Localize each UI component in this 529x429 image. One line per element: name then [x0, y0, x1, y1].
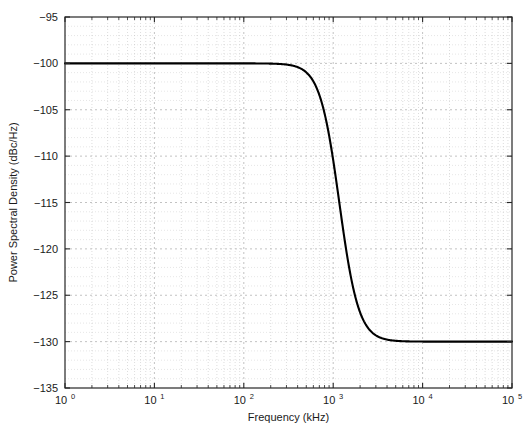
y-tick-label: −100: [33, 57, 58, 69]
plot-area-background: [65, 17, 512, 388]
figure-container: 100101102103104105 −95−100−105−110−115−1…: [0, 0, 529, 429]
svg-text:0: 0: [71, 392, 75, 401]
svg-text:2: 2: [250, 392, 254, 401]
y-tick-label: −95: [39, 11, 58, 23]
svg-text:10: 10: [412, 394, 424, 406]
svg-text:10: 10: [234, 394, 246, 406]
svg-text:3: 3: [339, 392, 343, 401]
y-tick-label: −130: [33, 336, 58, 348]
svg-text:10: 10: [144, 394, 156, 406]
svg-text:5: 5: [518, 392, 522, 401]
y-tick-label: −120: [33, 243, 58, 255]
svg-text:10: 10: [55, 394, 67, 406]
y-tick-label: −115: [34, 197, 58, 209]
y-axis-title: Power Spectral Density (dBc/Hz): [7, 122, 19, 282]
svg-text:1: 1: [160, 392, 164, 401]
svg-text:10: 10: [502, 394, 514, 406]
y-tick-label: −125: [33, 289, 58, 301]
svg-text:4: 4: [429, 392, 433, 401]
x-axis-title: Frequency (kHz): [248, 411, 329, 423]
y-axis-tick-labels: −95−100−105−110−115−120−125−130−135: [33, 11, 58, 394]
y-tick-label: −105: [33, 104, 58, 116]
svg-text:10: 10: [323, 394, 335, 406]
y-tick-label: −110: [34, 150, 58, 162]
psd-line-chart: 100101102103104105 −95−100−105−110−115−1…: [0, 0, 529, 429]
y-tick-label: −135: [33, 382, 58, 394]
